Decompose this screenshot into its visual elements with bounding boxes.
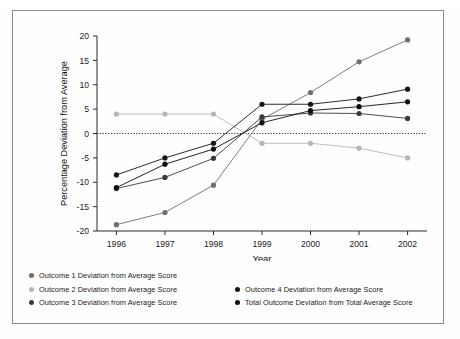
data-point — [114, 111, 119, 116]
data-point — [114, 222, 119, 227]
chart-legend: Outcome 1 Deviation from Average Score O… — [27, 269, 431, 319]
figure-frame: -20-15-10-505101520199619971998199920002… — [12, 10, 444, 324]
legend-label-total-outcome: Total Outcome Deviation from Total Avera… — [245, 299, 413, 306]
legend-item-outcome-4[interactable]: Outcome 4 Deviation from Average Score — [235, 283, 413, 297]
data-point — [162, 155, 167, 160]
data-point — [356, 104, 361, 109]
plot-area: -20-15-10-505101520199619971998199920002… — [13, 11, 445, 261]
chart-page: -20-15-10-505101520199619971998199920002… — [0, 0, 460, 339]
y-tick-label: -20 — [77, 226, 90, 236]
data-point — [211, 156, 216, 161]
data-point — [162, 111, 167, 116]
legend-marker-outcome-1 — [29, 273, 34, 278]
data-point — [356, 59, 361, 64]
data-point — [259, 102, 264, 107]
y-axis-title: Percentage Deviation from Average — [59, 61, 69, 206]
x-tick-label: 2000 — [301, 239, 320, 249]
y-tick-label: 10 — [79, 80, 89, 90]
data-point — [308, 108, 313, 113]
data-point — [405, 116, 410, 121]
x-tick-label: 2002 — [398, 239, 417, 249]
data-point — [162, 162, 167, 167]
data-point — [405, 37, 410, 42]
top-edge-artifact — [0, 0, 460, 9]
series-line — [116, 40, 407, 225]
data-point — [162, 210, 167, 215]
legend-marker-outcome-2 — [29, 287, 34, 292]
y-tick-label: -10 — [77, 177, 90, 187]
x-tick-label: 1997 — [155, 239, 174, 249]
data-point — [308, 102, 313, 107]
legend-marker-outcome-3 — [29, 300, 34, 305]
y-tick-label: -5 — [81, 153, 89, 163]
legend-item-total-outcome[interactable]: Total Outcome Deviation from Total Avera… — [235, 296, 413, 310]
data-point — [259, 114, 264, 119]
legend-marker-outcome-4 — [235, 287, 240, 292]
data-point — [114, 172, 119, 177]
y-tick-label: 15 — [79, 56, 89, 66]
data-point — [308, 141, 313, 146]
data-point — [114, 185, 119, 190]
legend-marker-total-outcome — [235, 300, 240, 305]
legend-column-left: Outcome 1 Deviation from Average Score O… — [29, 269, 177, 310]
y-tick-label: 20 — [79, 31, 89, 41]
y-tick-label: 5 — [84, 104, 89, 114]
legend-column-right: Outcome 4 Deviation from Average Score T… — [235, 283, 413, 310]
legend-label-outcome-2: Outcome 2 Deviation from Average Score — [39, 286, 177, 293]
x-tick-label: 2001 — [349, 239, 368, 249]
x-tick-label: 1999 — [252, 239, 271, 249]
series-1 — [114, 37, 410, 227]
legend-item-outcome-2[interactable]: Outcome 2 Deviation from Average Score — [29, 283, 177, 297]
data-point — [405, 99, 410, 104]
y-tick-label: -15 — [77, 202, 90, 212]
legend-label-outcome-1: Outcome 1 Deviation from Average Score — [39, 272, 177, 279]
data-point — [259, 120, 264, 125]
x-tick-label: 1998 — [204, 239, 223, 249]
data-point — [405, 155, 410, 160]
legend-label-outcome-4: Outcome 4 Deviation from Average Score — [245, 286, 383, 293]
data-point — [356, 111, 361, 116]
data-point — [405, 87, 410, 92]
x-axis-title: Year — [253, 253, 272, 261]
data-point — [211, 183, 216, 188]
data-point — [308, 90, 313, 95]
data-point — [162, 175, 167, 180]
data-point — [259, 141, 264, 146]
data-point — [211, 111, 216, 116]
series-4 — [114, 87, 410, 178]
data-point — [356, 96, 361, 101]
line-chart: -20-15-10-505101520199619971998199920002… — [13, 11, 445, 261]
legend-item-outcome-3[interactable]: Outcome 3 Deviation from Average Score — [29, 296, 177, 310]
data-point — [211, 141, 216, 146]
data-point — [356, 146, 361, 151]
x-tick-label: 1996 — [107, 239, 126, 249]
legend-label-outcome-3: Outcome 3 Deviation from Average Score — [39, 299, 177, 306]
legend-item-outcome-1[interactable]: Outcome 1 Deviation from Average Score — [29, 269, 177, 283]
y-tick-label: 0 — [84, 129, 89, 139]
data-point — [211, 147, 216, 152]
